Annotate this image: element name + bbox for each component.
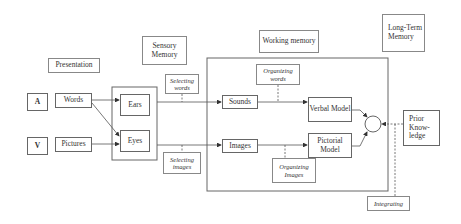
eyes-box: Eyes (120, 130, 150, 152)
organizing-images-box: Organizing Images (272, 158, 316, 183)
pictorial-model-box: Pictorial Model (308, 133, 352, 158)
organizing-words-box: Organizing words (256, 64, 300, 85)
selecting-images-box: Selecting images (163, 152, 201, 174)
multimedia-learning-diagram: Presentation Sensory Memory Working memo… (0, 0, 461, 224)
selecting-words-box: Selecting words (165, 74, 199, 94)
images-box: Images (222, 139, 258, 153)
pictures-box: Pictures (55, 137, 92, 152)
verbal-model-box: Verbal Model (308, 97, 352, 122)
ears-box: Ears (120, 94, 150, 116)
visual-channel-box: V (27, 137, 48, 155)
sensory-memory-label: Sensory Memory (142, 36, 187, 65)
presentation-label: Presentation (48, 58, 100, 73)
sounds-box: Sounds (222, 95, 258, 109)
words-box: Words (55, 93, 92, 108)
prior-knowledge-box: Prior Know-ledge (403, 110, 440, 146)
integrating-box: Integrating (367, 196, 410, 211)
working-memory-label: Working memory (259, 30, 319, 53)
long-term-memory-label: Long-Term Memory (382, 14, 425, 52)
auditory-channel-box: A (27, 93, 48, 111)
